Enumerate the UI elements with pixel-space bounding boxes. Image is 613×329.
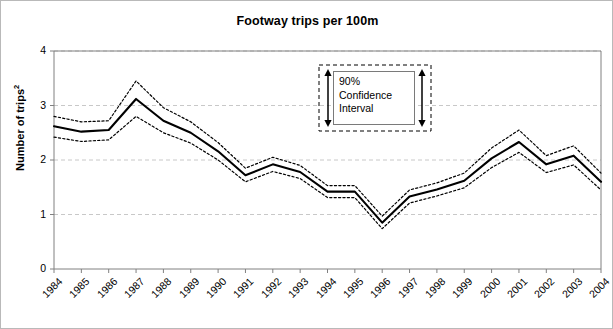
y-axis-label-2: 2 [24,153,46,165]
chart-figure: Footway trips per 100m Number of trips2 … [0,0,613,329]
legend-line-3: Interval [339,102,414,116]
confidence-interval-legend: 90% Confidence Interval [333,71,415,125]
series-line-2 [54,116,601,228]
legend-arrowhead-down-1 [418,120,425,127]
y-axis-label-4: 4 [24,44,46,56]
legend-line-1: 90% [339,75,414,89]
legend-arrowhead-down-0 [324,120,331,127]
legend-arrowhead-up-0 [324,69,331,76]
y-axis-label-0: 0 [24,262,46,274]
x-tick-marks [54,269,601,273]
y-axis-label-1: 1 [24,208,46,220]
y-tick-marks [50,51,54,269]
y-axis-label-3: 3 [24,99,46,111]
legend-arrowhead-up-1 [418,69,425,76]
legend-line-2: Confidence [339,89,414,103]
